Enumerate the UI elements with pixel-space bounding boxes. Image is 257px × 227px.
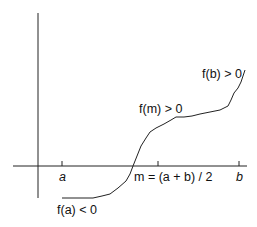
- label-midpoint: m = (a + b) / 2: [134, 171, 213, 184]
- label-f-a: f(a) < 0: [57, 204, 97, 217]
- bisection-diagram: a m = (a + b) / 2 b f(a) < 0 f(m) > 0 f(…: [0, 0, 257, 227]
- diagram-canvas: [0, 0, 257, 227]
- label-f-m: f(m) > 0: [139, 103, 182, 116]
- label-b: b: [236, 171, 243, 184]
- label-f-b: f(b) > 0: [202, 68, 242, 81]
- label-a: a: [59, 171, 66, 184]
